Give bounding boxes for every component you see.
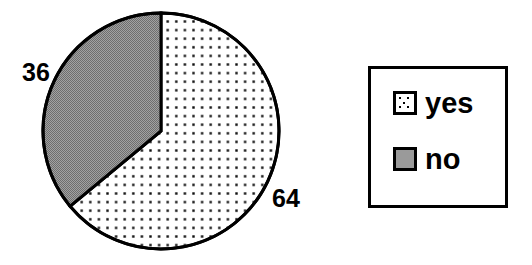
dotted-swatch-icon: [393, 91, 417, 115]
legend-entry-no: no: [393, 142, 505, 176]
legend-entry-yes: yes: [393, 86, 505, 120]
gray-swatch-icon: [393, 147, 417, 171]
pie-label-yes: 64: [272, 186, 300, 211]
pie-chart-figure: 36 64 yes: [0, 0, 532, 265]
pie-chart-graphic: [0, 0, 330, 265]
pie-label-no: 36: [22, 60, 50, 85]
legend: yes no: [368, 66, 508, 208]
legend-label-yes: yes: [425, 89, 473, 118]
legend-label-no: no: [425, 145, 460, 174]
legend-entry-list: yes no: [393, 86, 505, 176]
